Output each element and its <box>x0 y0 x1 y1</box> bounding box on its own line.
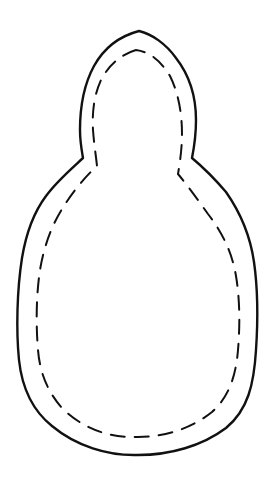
pattern-canvas: Sewing pattern template: gourd / snowman… <box>0 0 276 483</box>
background <box>0 0 276 483</box>
pattern-svg <box>0 0 276 483</box>
